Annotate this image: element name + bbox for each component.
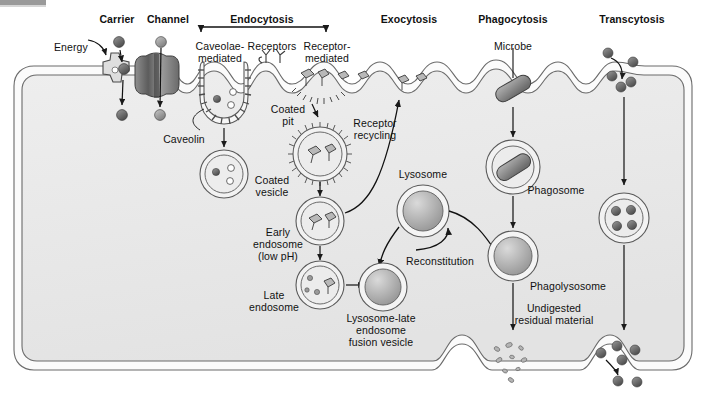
- title-bar-strip: [0, 0, 46, 5]
- label-microbe: Microbe: [423, 41, 603, 53]
- label-caveolin: Caveolin: [94, 134, 274, 146]
- label-undigested-residual: Undigested residual material: [464, 303, 644, 327]
- label-fusion-vesicle: Lysosome-late endosome fusion vesicle: [291, 313, 471, 348]
- label-energy: Energy: [54, 42, 88, 54]
- label-reconstitution: Reconstitution: [350, 256, 530, 268]
- label-early-endosome: Early endosome (low pH): [188, 227, 368, 262]
- fusion-vesicle: [359, 263, 407, 311]
- label-lysosome: Lysosome: [333, 169, 513, 181]
- transcytosis-vesicle: [599, 193, 649, 243]
- label-receptor-recycling: Receptor recycling: [285, 118, 465, 142]
- label-phagolysosome: Phagolysosome: [478, 281, 658, 293]
- solute-above-carrier: [114, 37, 125, 48]
- solute-in-carrier: [119, 64, 130, 75]
- label-late-endosome: Late endosome: [184, 290, 364, 314]
- energy-arrow: [88, 40, 106, 55]
- label-phagosome: Phagosome: [466, 185, 646, 197]
- label-transcytosis: Transcytosis: [542, 14, 705, 26]
- solute-below-channel: [155, 110, 166, 121]
- diagram-canvas: CarrierChannelEndocytosisExocytosisPhago…: [0, 0, 705, 395]
- label-receptor-mediated: Receptor- mediated: [237, 41, 417, 65]
- solute-below-carrier: [117, 110, 128, 121]
- endocytosis-bracket: [201, 27, 326, 32]
- lysosome: [397, 185, 449, 237]
